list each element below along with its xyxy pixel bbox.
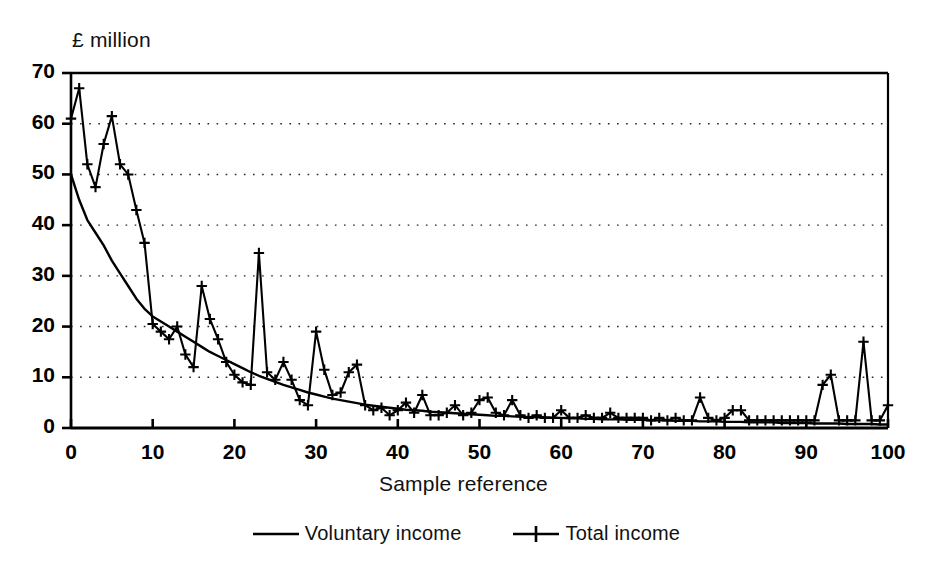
x-tick-label: 30	[276, 440, 356, 464]
x-tick-label: 10	[113, 440, 193, 464]
x-tick-label: 20	[194, 440, 274, 464]
y-tick-label: 70	[0, 59, 55, 83]
x-tick-label: 60	[521, 440, 601, 464]
legend-item-voluntary-income: Voluntary income	[247, 522, 462, 545]
x-tick-label: 90	[766, 440, 846, 464]
x-tick-label: 80	[685, 440, 765, 464]
y-tick-label: 20	[0, 313, 55, 337]
chart-legend: Voluntary income Total income	[0, 522, 927, 545]
series-voluntary-income	[71, 174, 888, 424]
legend-line-plus-swatch	[507, 524, 565, 544]
legend-line-swatch	[247, 524, 305, 544]
y-tick-label: 50	[0, 160, 55, 184]
legend-label-voluntary-income: Voluntary income	[305, 522, 462, 545]
legend-item-total-income: Total income	[507, 522, 680, 545]
y-tick-label: 30	[0, 262, 55, 286]
x-tick-label: 0	[31, 440, 111, 464]
y-tick-label: 10	[0, 363, 55, 387]
x-tick-label: 70	[603, 440, 683, 464]
y-tick-label: 0	[0, 414, 55, 438]
x-tick-label: 40	[358, 440, 438, 464]
y-axis-ticks	[62, 73, 71, 428]
y-axis-label: £ million	[72, 28, 151, 52]
plot-canvas	[0, 0, 927, 584]
y-tick-label: 60	[0, 110, 55, 134]
y-tick-label: 40	[0, 211, 55, 235]
axes-frame	[71, 73, 888, 428]
x-axis-label: Sample reference	[0, 472, 927, 496]
legend-label-total-income: Total income	[565, 522, 680, 545]
series-total-income	[66, 83, 893, 426]
x-tick-label: 100	[848, 440, 927, 464]
chart-figure: £ million 010203040506070 01020304050607…	[0, 0, 927, 584]
gridlines	[71, 124, 888, 378]
x-tick-label: 50	[440, 440, 520, 464]
